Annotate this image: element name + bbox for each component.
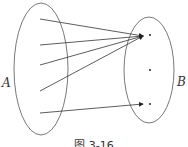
set-a-ellipse: [14, 3, 68, 135]
arrow-4: [40, 36, 143, 91]
arrows: [40, 19, 143, 113]
mapping-diagram: [0, 0, 188, 147]
point-b1: [149, 34, 151, 36]
codomain-points: [149, 34, 151, 105]
set-b-label: B: [177, 75, 186, 89]
set-a-label: A: [2, 76, 11, 90]
point-b3: [149, 103, 151, 105]
arrow-1: [40, 19, 143, 36]
arrow-5: [40, 104, 143, 113]
figure-caption: 图 3-16: [0, 136, 188, 147]
point-b2: [149, 69, 151, 71]
